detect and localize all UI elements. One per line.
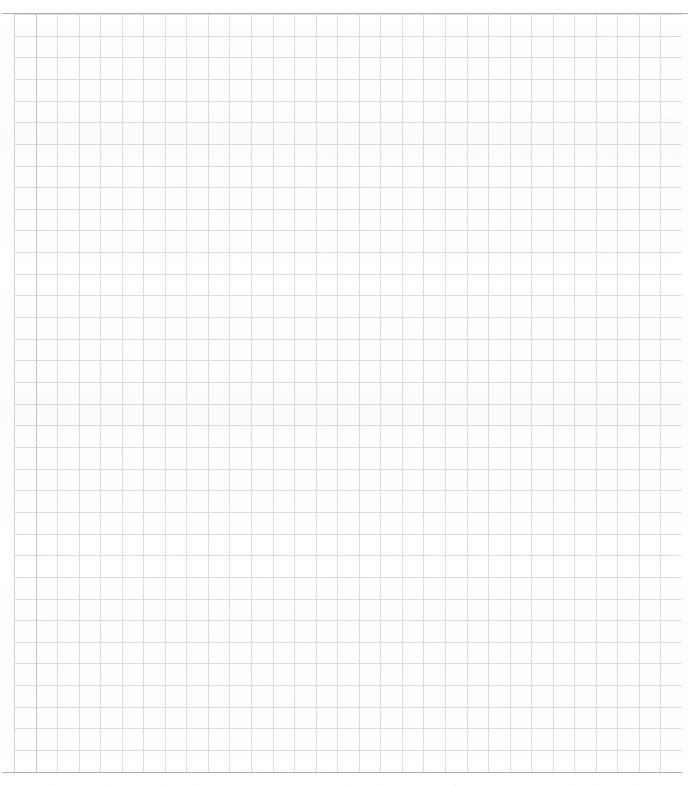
- left-second-rule: [36, 14, 37, 772]
- grid-area: [14, 14, 682, 772]
- grid-lines: [14, 14, 682, 772]
- bottom-border-rule: [2, 772, 682, 773]
- top-border-rule: [2, 13, 688, 14]
- left-margin-rule: [14, 14, 15, 772]
- document-page: [0, 0, 688, 786]
